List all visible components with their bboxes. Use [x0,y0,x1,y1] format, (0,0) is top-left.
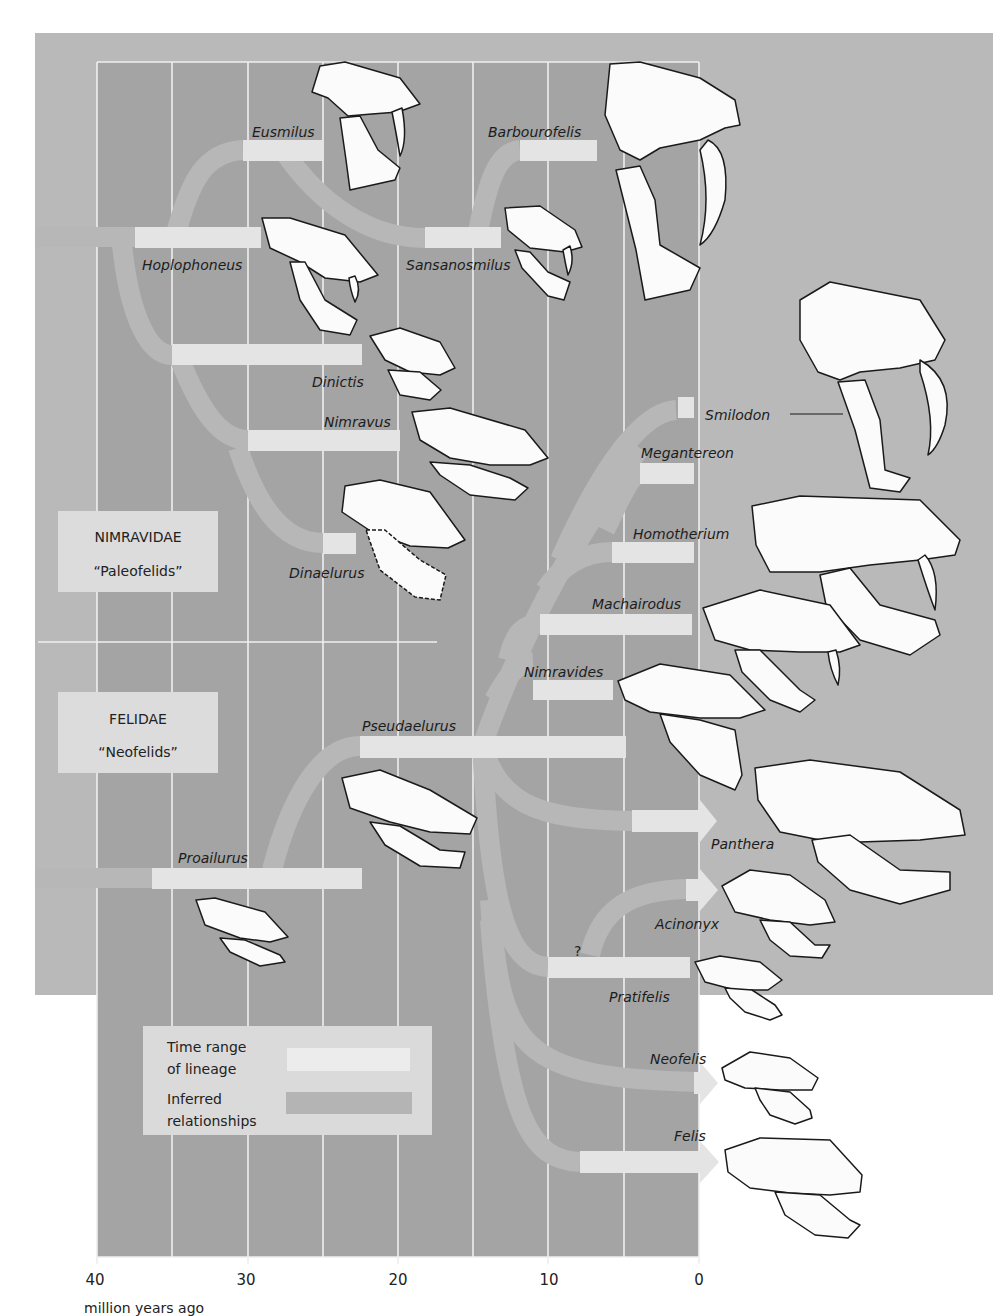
legend-inferred-label-2: relationships [167,1113,257,1129]
bar-proailurus [152,868,362,889]
label-dinaelurus: Dinaelurus [289,565,364,581]
bar-homotherium [612,542,694,563]
label-pratifelis: Pratifelis [609,989,670,1005]
label-smilodon: Smilodon [705,407,770,423]
legend: Time range of lineage Inferred relations… [143,1026,432,1135]
group-subtitle-felidae: “Neofelids” [98,744,178,760]
tick-label-40: 40 [85,1271,104,1289]
legend-swatch-time-range [287,1048,410,1071]
group-box-felidae: FELIDAE “Neofelids” [58,692,218,773]
x-axis-label: million years ago [84,1300,204,1316]
bar-pseudaelurus [360,736,626,758]
group-subtitle-nimravidae: “Paleofelids” [93,563,182,579]
bar-barbourofelis [520,140,597,161]
legend-swatch-inferred [286,1092,412,1114]
label-barbourofelis: Barbourofelis [488,124,581,140]
label-pseudaelurus: Pseudaelurus [362,718,456,734]
tick-label-20: 20 [388,1271,407,1289]
tick-label-30: 30 [236,1271,255,1289]
bar-pratifelis [548,957,690,978]
felid-phylogeny-figure: NIMRAVIDAE “Paleofelids” FELIDAE “Neofel… [0,0,1006,1316]
legend-time-range-label-1: Time range [166,1039,246,1055]
group-name-felidae: FELIDAE [109,711,167,727]
legend-inferred-label-1: Inferred [167,1091,222,1107]
skull-neofelis-icon [722,1052,818,1124]
label-proailurus: Proailurus [178,850,248,866]
label-nimravus: Nimravus [324,414,391,430]
bar-dinictis [172,344,362,365]
label-hoplophoneus: Hoplophoneus [142,257,242,273]
bar-machairodus [540,614,692,635]
label-sansanosmilus: Sansanosmilus [406,257,511,273]
label-nimravides: Nimravides [524,664,603,680]
label-megantereon: Megantereon [641,445,734,461]
label-panthera: Panthera [711,836,774,852]
bar-hoplophoneus [135,227,261,248]
x-axis: 40 30 20 10 0 million years ago [84,1257,704,1316]
label-question-mark: ? [574,943,581,959]
label-dinictis: Dinictis [312,374,364,390]
bar-nimravides [533,680,613,700]
group-box-nimravidae: NIMRAVIDAE “Paleofelids” [58,511,218,592]
label-homotherium: Homotherium [633,526,729,542]
bar-dinaelurus [323,533,356,554]
label-felis: Felis [674,1128,706,1144]
tick-label-10: 10 [539,1271,558,1289]
bar-eusmilus [243,140,324,161]
tick-label-0: 0 [694,1271,704,1289]
label-machairodus: Machairodus [592,596,681,612]
label-eusmilus: Eusmilus [252,124,315,140]
bar-sansanosmilus [425,227,501,248]
bar-smilodon [678,397,694,418]
label-acinonyx: Acinonyx [654,916,720,932]
skull-felis-icon [725,1138,862,1238]
label-neofelis: Neofelis [650,1051,706,1067]
bar-megantereon [640,463,694,484]
bar-nimravus [248,430,400,451]
group-name-nimravidae: NIMRAVIDAE [94,529,181,545]
legend-time-range-label-2: of lineage [167,1061,236,1077]
